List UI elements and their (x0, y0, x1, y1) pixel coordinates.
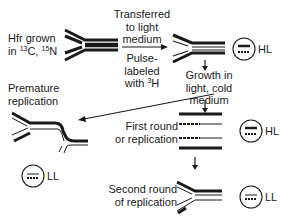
carbon-label: C, (27, 45, 41, 57)
growth-line1: Growth in (180, 69, 238, 82)
pulse-line3: with 3H (118, 77, 166, 90)
start-line2: in 13C, 15N (8, 45, 57, 58)
transfer-line3: medium (113, 33, 171, 46)
pulse-line1: Pulse- (118, 52, 166, 65)
start-condition-label: Hfr grown in 13C, 15N (8, 32, 57, 57)
first-round-line1: First round (108, 120, 178, 133)
hl-top-label: HL (258, 43, 272, 56)
second-round-line1: Second round (101, 183, 177, 196)
tritium-label: H (151, 77, 159, 89)
second-round-fork (177, 182, 222, 213)
transfer-label: Transferred to light medium (113, 8, 171, 46)
second-round-label: Second round of replication (101, 183, 177, 208)
transfer-line2: to light (113, 21, 171, 34)
transferred-fork (173, 35, 225, 62)
ll-bottom-label: LL (265, 191, 277, 204)
premature-line2: replication (8, 95, 59, 108)
pulse-label: Pulse- labeled with 3H (118, 52, 166, 90)
hl-band-middle (240, 120, 262, 142)
first-round-duplexes (179, 114, 222, 148)
premature-fork (12, 113, 88, 153)
growth-label: Growth in light, cold medium (180, 69, 238, 107)
premature-label: Premature replication (8, 82, 59, 107)
pulse-prefix: with (125, 77, 148, 89)
start-line1: Hfr grown (8, 32, 57, 45)
first-round-line2: or replication (108, 133, 178, 146)
hl-band-top (233, 38, 255, 60)
second-round-line2: of replication (101, 196, 177, 209)
premature-line1: Premature (8, 82, 59, 95)
pulse-line2: labeled (118, 65, 166, 78)
initial-fork (65, 30, 118, 60)
nitrogen-label: N (49, 45, 57, 57)
hl-middle-label: HL (265, 125, 279, 138)
ll-left-label: LL (47, 170, 59, 183)
growth-line2: light, cold (180, 82, 238, 95)
start-prefix: in (8, 45, 20, 57)
growth-line3: medium (180, 94, 238, 107)
ll-band-left (22, 165, 44, 187)
transfer-line1: Transferred (113, 8, 171, 21)
first-round-label: First round or replication (108, 120, 178, 145)
ll-band-bottom (240, 186, 262, 208)
